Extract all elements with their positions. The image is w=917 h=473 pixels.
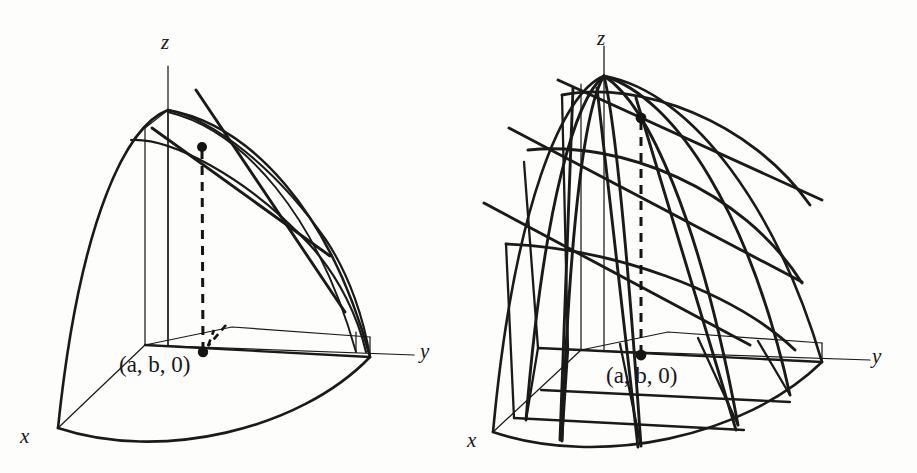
base-radial-1 — [526, 348, 581, 420]
right-x-axis-label: x — [467, 428, 476, 453]
left-point-label: (a, b, 0) — [119, 352, 191, 378]
right-point-label-text: (a, b, 0) — [606, 363, 678, 388]
drop-line-dashed — [202, 150, 203, 349]
box-top-edge-a — [145, 110, 168, 128]
equator-xy-arc — [58, 357, 370, 442]
right-point-label: (a, b, 0) — [606, 363, 678, 389]
base-grid-line-1 — [541, 390, 790, 402]
right-y-axis-label: y — [872, 344, 881, 369]
right-z-axis-label: z — [597, 26, 605, 51]
left-x-axis-label: x — [20, 424, 29, 449]
base-line-front-right — [581, 350, 822, 362]
figure-root: z x y (a, b, 0) — [0, 0, 917, 473]
left-z-axis-label: z — [161, 30, 169, 55]
surface-point-dot-right — [636, 113, 647, 124]
meridian-xz-arc — [58, 110, 168, 428]
left-y-axis-label: y — [420, 339, 429, 364]
box-base-upper — [145, 327, 370, 345]
riser-outer — [506, 244, 514, 418]
base-point-dot — [198, 347, 208, 357]
surface-point-dot — [197, 142, 207, 152]
longitude-curve-2 — [562, 76, 604, 441]
base-point-dot-right — [636, 350, 647, 361]
pointer-arrow-dashed — [208, 325, 226, 346]
base-grid-line-2 — [514, 418, 744, 430]
inner-silhouette-arc — [168, 112, 356, 352]
tangent-line-1 — [196, 90, 345, 312]
right-diagram — [450, 0, 917, 473]
left-diagram — [0, 0, 460, 473]
left-point-label-text: (a, b, 0) — [119, 352, 191, 377]
base-radial-5 — [758, 341, 790, 395]
latitude-curve-3 — [506, 244, 795, 350]
